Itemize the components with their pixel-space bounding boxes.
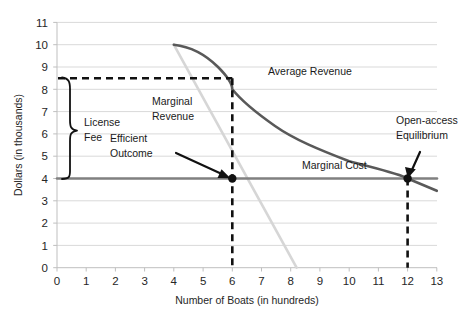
annotation-marginal-revenue-line2: Revenue (152, 110, 194, 122)
license-fee-brace (62, 78, 77, 180)
annotation-marginal-revenue-line1: Marginal (152, 95, 192, 107)
efficient-outcome-arrow (176, 153, 231, 178)
y-tick-3: 3 (42, 195, 48, 207)
annotation-open-access-line2: Equilibrium (396, 129, 448, 141)
y-tick-4: 4 (42, 173, 49, 185)
chart-canvas: 11 10 9 8 7 6 5 4 3 2 1 0 0 1 2 3 4 5 6 … (0, 0, 467, 309)
y-tick-2: 2 (42, 217, 48, 229)
annotation-license-fee-line1: License (84, 116, 120, 128)
y-tick-0: 0 (42, 262, 48, 274)
x-tick-1: 1 (83, 275, 89, 287)
x-tick-5: 5 (200, 275, 206, 287)
x-tick-7: 7 (258, 275, 264, 287)
annotation-license-fee-line2: Fee (84, 131, 102, 143)
x-tick-8: 8 (287, 275, 293, 287)
annotation-average-revenue: Average Revenue (268, 65, 352, 77)
x-tick-13: 13 (430, 275, 443, 287)
x-tick-10: 10 (343, 275, 356, 287)
annotation-marginal-cost: Marginal Cost (302, 159, 367, 171)
y-tick-11: 11 (36, 17, 48, 29)
annotation-open-access-line1: Open-access (396, 114, 458, 126)
x-tick-11: 11 (372, 275, 384, 287)
x-tick-0: 0 (54, 275, 60, 287)
y-tick-8: 8 (42, 84, 48, 96)
y-axis-title: Dollars (in thousands) (12, 94, 24, 196)
y-tick-labels: 11 10 9 8 7 6 5 4 3 2 1 0 (35, 17, 48, 274)
x-axis-title: Number of Boats (in hundreds) (175, 294, 319, 306)
y-tick-5: 5 (42, 150, 48, 162)
x-axis-ticks (57, 268, 437, 272)
y-tick-7: 7 (42, 106, 48, 118)
x-tick-12: 12 (401, 275, 414, 287)
x-tick-4: 4 (171, 275, 178, 287)
efficient-outcome-point (228, 174, 236, 182)
x-tick-6: 6 (229, 275, 235, 287)
y-tick-6: 6 (42, 128, 48, 140)
y-tick-10: 10 (35, 39, 48, 51)
annotation-efficient-outcome-line2: Outcome (110, 147, 153, 159)
y-axis-ticks (53, 22, 57, 267)
x-tick-9: 9 (317, 275, 323, 287)
x-tick-3: 3 (141, 275, 147, 287)
economics-chart: 11 10 9 8 7 6 5 4 3 2 1 0 0 1 2 3 4 5 6 … (0, 0, 467, 309)
x-tick-2: 2 (112, 275, 118, 287)
x-tick-labels: 0 1 2 3 4 5 6 7 8 9 10 11 12 13 (54, 275, 443, 287)
y-tick-9: 9 (42, 61, 48, 73)
annotation-efficient-outcome-line1: Efficient (110, 132, 147, 144)
y-tick-1: 1 (42, 240, 48, 252)
